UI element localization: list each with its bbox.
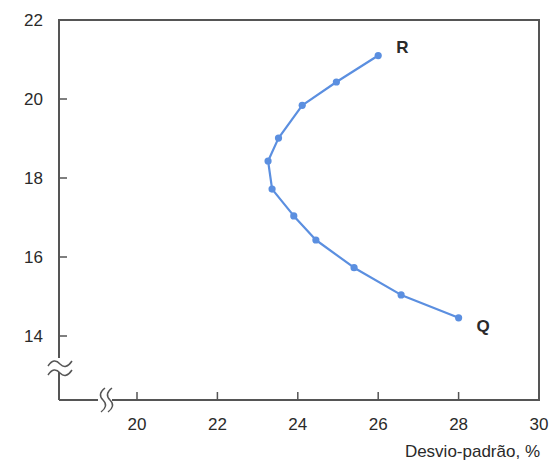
data-point — [375, 52, 382, 59]
data-point — [398, 291, 405, 298]
x-tick-label: 22 — [208, 415, 227, 434]
data-point — [275, 135, 282, 142]
x-tick-label: 20 — [128, 415, 147, 434]
x-tick-label: 26 — [369, 415, 388, 434]
plot-frame — [59, 20, 539, 400]
x-axis-break-icon — [98, 388, 113, 412]
x-tick-label: 24 — [288, 415, 307, 434]
frontier-line — [268, 56, 459, 318]
y-tick-label: 22 — [24, 11, 43, 30]
data-point — [268, 185, 275, 192]
data-point — [333, 78, 340, 85]
y-tick-label: 18 — [24, 169, 43, 188]
point-label-q: Q — [477, 317, 490, 336]
data-point — [299, 102, 306, 109]
chart-canvas: 1416182022202224262830Desvio-padrão, % R… — [0, 0, 554, 467]
annotations: RQ — [396, 38, 490, 336]
point-label-r: R — [396, 38, 408, 57]
data-point — [290, 212, 297, 219]
data-point — [312, 236, 319, 243]
y-tick-label: 16 — [24, 248, 43, 267]
x-tick-label: 28 — [449, 415, 468, 434]
data-point — [455, 314, 462, 321]
x-axis-title: Desvio-padrão, % — [405, 442, 540, 461]
axes: 1416182022202224262830Desvio-padrão, % — [24, 11, 548, 461]
data-point — [264, 157, 271, 164]
x-tick-label: 30 — [530, 415, 549, 434]
y-axis-break-icon — [47, 358, 72, 375]
series-frontier — [264, 52, 462, 321]
y-tick-label: 20 — [24, 90, 43, 109]
y-tick-label: 14 — [24, 327, 43, 346]
data-point — [350, 264, 357, 271]
